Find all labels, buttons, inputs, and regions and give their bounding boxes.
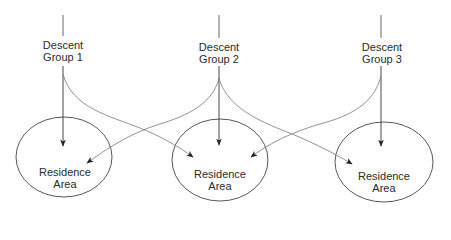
descent-group-1-line1: Descent <box>43 39 83 51</box>
descent-group-1-label: Descent Group 1 <box>43 38 83 64</box>
edge-g2-r1-curve <box>87 78 219 163</box>
residence-area-2-line2: Area <box>194 180 246 192</box>
residence-area-3-label: Residence Area <box>358 169 410 195</box>
residence-area-2-line1: Residence <box>194 168 246 180</box>
descent-group-2-line1: Descent <box>199 41 239 53</box>
residence-area-1-line2: Area <box>39 178 91 190</box>
descent-group-2-label: Descent Group 2 <box>199 40 239 66</box>
residence-area-2-label: Residence Area <box>194 167 246 193</box>
descent-group-2-line2: Group 2 <box>199 53 239 65</box>
descent-group-3-label: Descent Group 3 <box>362 40 402 66</box>
descent-group-1-line2: Group 1 <box>43 51 83 63</box>
residence-area-1-label: Residence Area <box>39 165 91 191</box>
descent-group-3-line1: Descent <box>362 41 402 53</box>
descent-group-3-line2: Group 3 <box>362 53 402 65</box>
residence-area-1-line1: Residence <box>39 166 91 178</box>
edge-g1-r2-curve <box>63 74 193 157</box>
residence-area-3-line1: Residence <box>358 170 410 182</box>
residence-area-3-line2: Area <box>358 182 410 194</box>
edge-g2-r3-curve <box>219 78 352 164</box>
